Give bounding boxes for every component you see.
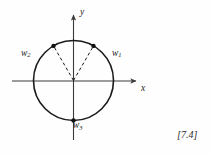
point-marker-w1 [91,44,95,48]
radius-line-w1 [74,46,94,81]
radius-line-w2 [54,46,74,81]
figure-reference-tag: [7.4] [177,129,197,140]
point-label-w1: w1 [112,49,122,59]
x-axis-label: x [141,84,145,94]
point-label-w3: w3 [73,121,83,131]
y-axis-label: y [80,8,84,18]
point-label-w2: w2 [21,49,31,59]
figure-container: w1 w2 w3 x y [7.4] [0,0,211,155]
point-label-w1-subscript: 1 [118,51,121,58]
point-label-w2-subscript: 2 [27,51,30,58]
point-label-w3-subscript: 3 [79,124,82,131]
point-marker-w2 [51,44,55,48]
